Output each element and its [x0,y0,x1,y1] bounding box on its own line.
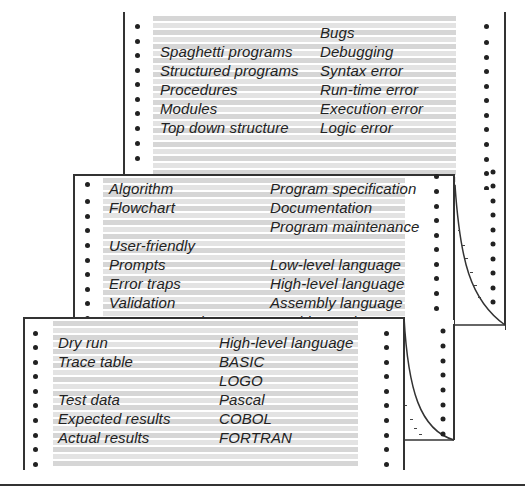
term-right: LOGO [219,372,263,389]
term-left: Test data [58,391,120,408]
term-left: Dry run [58,334,108,351]
term-row: Actual resultsFORTRAN [23,429,405,449]
front-sheet: Dry runHigh-level language Trace tableBA… [23,317,405,470]
term-left: Expected results [58,410,171,427]
term-right: High-level language [219,334,354,351]
term-left: Actual results [58,429,149,446]
bottom-rule [0,484,525,486]
term-row: LOGO [23,372,405,392]
term-row: Expected resultsCOBOL [23,410,405,430]
term-right: BASIC [219,353,265,370]
term-right: Pascal [219,391,265,408]
term-row: Test dataPascal [23,391,405,411]
term-right: COBOL [219,410,272,427]
term-left: Trace table [58,353,133,370]
term-right: FORTRAN [219,429,292,446]
term-row: Trace tableBASIC [23,353,405,373]
term-row: Dry runHigh-level language [23,334,405,354]
